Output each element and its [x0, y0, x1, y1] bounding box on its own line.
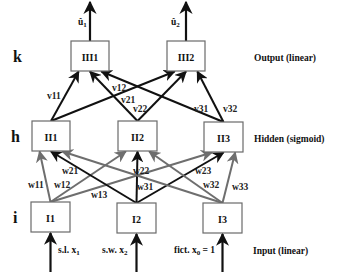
- output-label-1: û1: [78, 17, 87, 29]
- node-i2: I2: [117, 203, 156, 233]
- layer-letter-hidden: h: [11, 128, 20, 145]
- weight-label-v31: v31: [194, 104, 209, 114]
- hidden-output-edge-v31: [101, 72, 223, 123]
- hidden-to-output-edges: [51, 72, 224, 123]
- weight-label-w23: w23: [195, 166, 212, 176]
- input-hidden-edge-w11: [40, 152, 51, 203]
- node-label: II2: [131, 132, 144, 143]
- node-ii1: II1: [32, 121, 70, 151]
- input-label-2: s.w. x2: [102, 245, 128, 257]
- weight-label-w32: w32: [203, 180, 220, 190]
- node-iii1: III1: [71, 41, 109, 71]
- neural-network-diagram: III1III2II1II2II3I1I2I3 v11v12v21v22v31v…: [0, 0, 339, 274]
- node-ii3: II3: [204, 122, 243, 152]
- input-hidden-edge-w13: [51, 153, 212, 203]
- input-hidden-edge-w22: [137, 152, 138, 204]
- node-i1: I1: [31, 202, 70, 232]
- weight-label-v22: v22: [133, 104, 148, 114]
- weight-label-v32: v32: [223, 104, 238, 114]
- node-label: I1: [46, 213, 55, 224]
- weight-label-v12: v12: [112, 83, 127, 93]
- input-label-3: fict. x0 = 1: [174, 245, 215, 257]
- weight-label-w31: w31: [137, 182, 154, 192]
- input-hidden-edge-w33: [223, 153, 236, 204]
- node-label: II3: [217, 133, 230, 144]
- layer-desc-hidden: Hidden (sigmoid): [254, 134, 324, 145]
- weight-label-w21: w21: [62, 166, 79, 176]
- output-label-2: û2: [171, 17, 180, 29]
- weight-label-v11: v11: [47, 91, 61, 101]
- weight-label-w22: w22: [133, 166, 150, 176]
- layer-desc-output: Output (linear): [254, 53, 316, 64]
- node-label: II1: [45, 132, 58, 143]
- weight-label-w33: w33: [232, 182, 249, 192]
- node-label: I2: [132, 214, 141, 225]
- node-ii2: II2: [118, 121, 157, 151]
- nodes: III1III2II1II2II3I1I2I3: [31, 41, 243, 233]
- node-label: I3: [218, 214, 227, 225]
- weight-label-w12: w12: [54, 180, 71, 190]
- layer-letter-output: k: [13, 48, 22, 65]
- input-to-hidden-edges: [40, 152, 236, 204]
- input-label-1: s.l. x1: [58, 245, 80, 257]
- layer-letter-input: i: [13, 209, 18, 226]
- weight-label-w11: w11: [28, 180, 44, 190]
- node-label: III2: [178, 52, 195, 63]
- node-label: III1: [82, 52, 99, 63]
- layer-desc-input: Input (linear): [253, 246, 308, 257]
- node-i3: I3: [203, 203, 242, 233]
- node-iii2: III2: [167, 41, 205, 71]
- hidden-output-edge-v32: [197, 72, 223, 123]
- weight-label-w13: w13: [91, 190, 108, 200]
